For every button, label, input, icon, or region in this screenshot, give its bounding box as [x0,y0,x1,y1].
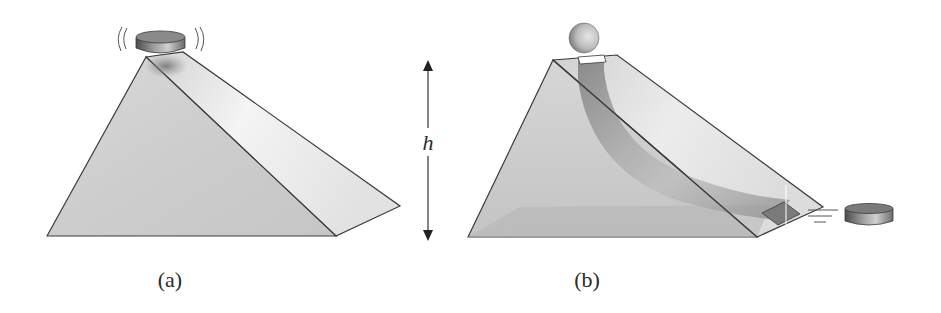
height-label: h [423,130,434,155]
puck-a-shadow [144,54,188,78]
puck-b [845,204,893,226]
arrow-down-icon [423,230,433,241]
panel-b [468,23,893,237]
caption-b: (b) [574,267,600,292]
panel-a [47,27,400,236]
arrow-up-icon [423,60,433,71]
puck-a [136,31,185,53]
ball [569,23,599,53]
caption-a: (a) [158,267,182,292]
tunnel-entrance [578,55,606,64]
height-marker: h [423,60,434,241]
figure-canvas: h (a) (b) [0,0,941,313]
